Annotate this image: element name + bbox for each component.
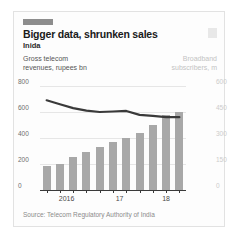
x-axis-tick (86, 190, 87, 193)
y-axis-right-tick-label: 600 (216, 78, 238, 85)
x-axis-tick (113, 190, 114, 193)
y-axis-right-tick-label: 150 (216, 156, 238, 163)
y-axis-left-tick-label: 800 (18, 78, 38, 85)
y-axis-left-tick-label: 600 (18, 104, 38, 111)
y-axis-right-tick-label: 0 (216, 182, 238, 189)
x-axis-tick (100, 190, 101, 193)
y-axis-left-tick-label: 200 (18, 156, 38, 163)
y-axis-right-tick-label: 300 (216, 130, 238, 137)
chart-card-inner: Bigger data, shrunken sales Inida Gross … (14, 12, 224, 226)
line-series-svg (40, 86, 186, 190)
plot-area: 0200400600800015030045060020161718 (40, 86, 186, 190)
x-axis-tick (166, 190, 167, 193)
x-axis-tick-label: 18 (151, 195, 181, 203)
x-axis-tick (140, 190, 141, 193)
x-axis-tick (73, 190, 74, 193)
revenue-line (47, 100, 180, 117)
x-axis-tick (60, 190, 61, 193)
chart-card: Bigger data, shrunken sales Inida Gross … (13, 11, 225, 227)
x-axis-tick-label: 2016 (52, 195, 82, 203)
y-axis-left-tick-label: 400 (18, 130, 38, 137)
y-axis-left-tick-label: 0 (18, 182, 38, 189)
chart-screenshot: Bigger data, shrunken sales Inida Gross … (0, 0, 238, 240)
y-axis-right-tick-label: 450 (216, 104, 238, 111)
x-axis-tick (153, 190, 154, 193)
x-axis-tick (47, 190, 48, 193)
x-axis-tick-label: 17 (105, 195, 135, 203)
plot-area-wrapper: 0200400600800015030045060020161718 (14, 12, 226, 228)
x-axis-tick (179, 190, 180, 193)
source-note: Source: Telecom Regulatory Authority of … (23, 211, 155, 219)
x-axis-tick (126, 190, 127, 193)
